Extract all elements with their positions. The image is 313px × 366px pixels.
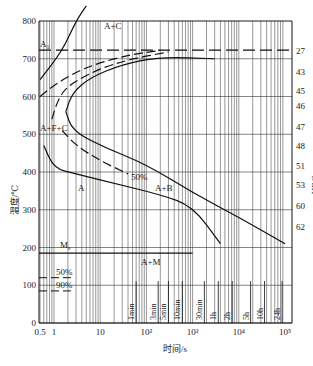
annotation-a: A	[78, 183, 85, 193]
annotation-a-plus-m: A+M	[141, 257, 161, 267]
y-tick-label: 500	[23, 129, 37, 139]
region-annotations: A1A+CA+F+C50%AA+BMsA+M50%90%	[40, 21, 173, 290]
curve-50%-lower	[62, 130, 128, 173]
annotation-a-plus-c: A+C	[104, 21, 122, 31]
annotation-a-plus-b: A+B	[155, 183, 173, 193]
x-tick-label: 10²	[141, 327, 153, 337]
y-tick-label: 700	[23, 54, 37, 64]
x-tick-label: 10³	[187, 327, 199, 337]
y-tick-label: 600	[23, 92, 37, 102]
y-tick-label: 300	[23, 205, 37, 215]
curve-finish-upper	[66, 58, 215, 112]
time-marker-label: 30min	[195, 300, 204, 320]
curve-start-lower	[44, 146, 221, 244]
time-marker-label: 10min	[173, 300, 182, 320]
x-tick-label: 10	[96, 327, 106, 337]
time-marker-label: 1h	[209, 312, 218, 320]
hrc-tick-label: 43	[296, 67, 306, 77]
x-tick-label: 0.5	[34, 327, 46, 337]
annotation-50pct: 50%	[131, 172, 148, 182]
y-tick-label: 800	[23, 16, 37, 26]
time-marker-label: 2h	[223, 312, 232, 320]
hrc-tick-label: 27	[296, 46, 306, 56]
x-axis-label: 时间/s	[163, 343, 188, 354]
x-tick-label: 10⁵	[279, 327, 291, 337]
reference-lines	[39, 50, 292, 291]
y-tick-label: 400	[23, 167, 37, 177]
transformation-curves	[40, 6, 285, 244]
time-marker-label: 5min	[159, 304, 168, 320]
y-tick-label: 200	[23, 243, 37, 253]
ttt-diagram: 01002003004005006007008000.511010²10³10⁴…	[0, 0, 313, 366]
time-marker-label: 10h	[256, 308, 265, 320]
y-axis-label: 温度/℃	[9, 185, 20, 216]
curve-finish-lower	[66, 112, 285, 244]
annotation-a1: A1	[40, 39, 50, 50]
annotation-martensite-90pct: 90%	[56, 280, 73, 290]
hrc-tick-label: 62	[296, 222, 305, 232]
y-tick-label: 100	[23, 280, 37, 290]
curve-50%-dashed	[52, 52, 169, 119]
chart-canvas: 01002003004005006007008000.511010²10³10⁴…	[0, 0, 313, 366]
grid-lines	[39, 21, 292, 323]
hrc-tick-label: 46	[296, 101, 306, 111]
hrc-axis-label: HRC	[310, 176, 313, 195]
hrc-tick-label: 60	[296, 201, 306, 211]
time-marker-label: 5h	[242, 312, 251, 320]
hrc-tick-label: 53	[296, 180, 306, 190]
hrc-tick-label: 47	[296, 122, 306, 132]
hrc-tick-label: 48	[296, 141, 306, 151]
annotation-a-plus-f-plus-c: A+F+C	[40, 123, 68, 133]
x-tick-label: 10⁴	[233, 327, 245, 337]
annotation-martensite-50pct: 50%	[56, 267, 73, 277]
hrc-tick-label: 51	[296, 161, 305, 171]
time-marker-label: 1min	[127, 304, 136, 320]
annotation-ms: Ms	[60, 240, 71, 251]
time-marker-label: 3min	[149, 304, 158, 320]
hrc-tick-label: 45	[296, 86, 306, 96]
x-tick-label: 1	[52, 327, 57, 337]
time-marker-label: 24h	[273, 308, 282, 320]
